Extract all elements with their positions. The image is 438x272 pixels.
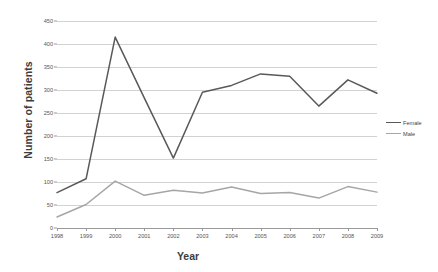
x-tick-label: 2006 xyxy=(283,233,295,239)
x-tick-label: 2009 xyxy=(371,233,383,239)
x-tick-label: 2007 xyxy=(313,233,325,239)
x-tick-mark xyxy=(86,228,87,231)
x-tick-label: 2002 xyxy=(167,233,179,239)
legend-swatch-icon xyxy=(386,133,401,134)
y-axis-title: Number of patients xyxy=(22,35,34,185)
x-tick-mark xyxy=(290,228,291,231)
y-tick-label: 100 xyxy=(44,179,53,185)
x-tick-label: 2005 xyxy=(254,233,266,239)
x-tick-label: 2001 xyxy=(138,233,150,239)
legend-item-female[interactable]: Female xyxy=(386,117,422,128)
x-tick-mark xyxy=(348,228,349,231)
line-chart-figure: Number of patients 050100150200250300350… xyxy=(0,0,438,272)
y-tick-label: 450 xyxy=(44,18,53,24)
series-line-female xyxy=(57,37,377,192)
legend-label: Female xyxy=(403,120,422,126)
plot-area: 050100150200250300350400450 199819992000… xyxy=(57,21,377,228)
y-tick-label: 200 xyxy=(44,133,53,139)
x-tick-mark xyxy=(57,228,58,231)
x-tick-label: 1998 xyxy=(51,233,63,239)
y-tick-label: 300 xyxy=(44,87,53,93)
x-tick-label: 2000 xyxy=(109,233,121,239)
y-tick-label: 400 xyxy=(44,41,53,47)
x-tick-mark xyxy=(202,228,203,231)
y-tick-label: 250 xyxy=(44,110,53,116)
chart-legend: FemaleMale xyxy=(386,117,422,139)
x-axis-line xyxy=(57,228,377,229)
x-tick-mark xyxy=(115,228,116,231)
series-line-male xyxy=(57,181,377,217)
x-tick-label: 1999 xyxy=(80,233,92,239)
x-tick-mark xyxy=(319,228,320,231)
x-tick-label: 2003 xyxy=(196,233,208,239)
series-lines xyxy=(57,21,377,228)
x-tick-mark xyxy=(173,228,174,231)
x-tick-mark xyxy=(232,228,233,231)
y-tick-label: 350 xyxy=(44,64,53,70)
legend-swatch-icon xyxy=(386,122,401,123)
x-tick-label: 2008 xyxy=(342,233,354,239)
x-tick-mark xyxy=(261,228,262,231)
x-tick-mark xyxy=(377,228,378,231)
y-tick-label: 150 xyxy=(44,156,53,162)
x-tick-label: 2004 xyxy=(225,233,237,239)
x-axis-title: Year xyxy=(0,250,376,262)
y-tick-label: 0 xyxy=(50,225,53,231)
y-tick-label: 50 xyxy=(47,202,53,208)
legend-label: Male xyxy=(403,131,415,137)
legend-item-male[interactable]: Male xyxy=(386,128,422,139)
x-tick-mark xyxy=(144,228,145,231)
